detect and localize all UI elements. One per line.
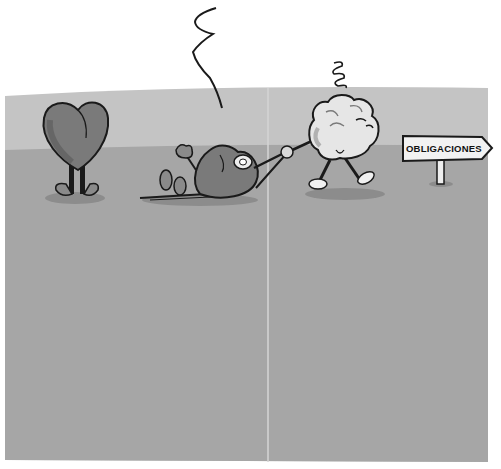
dizzy-spiral-icon xyxy=(333,62,346,88)
scene-svg: OBLIGACIONES xyxy=(0,0,501,469)
sign-label: OBLIGACIONES xyxy=(406,143,482,154)
cartoon-scene: OBLIGACIONES xyxy=(0,0,501,469)
